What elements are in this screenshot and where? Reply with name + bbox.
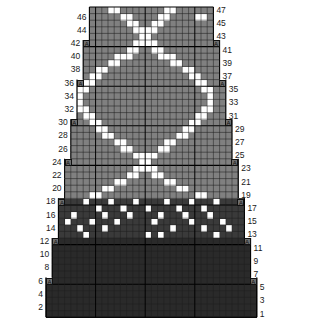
chart-cell-empty — [238, 205, 245, 212]
chart-cell-empty — [207, 20, 214, 27]
chart-cell-empty — [226, 132, 233, 139]
chart-cell-empty — [251, 284, 258, 291]
row-number-37: 37 — [223, 72, 232, 80]
row-number-20: 20 — [52, 184, 61, 192]
row-number-7: 7 — [254, 270, 259, 278]
row-number-23: 23 — [241, 164, 250, 172]
chart-cell-empty — [232, 165, 239, 172]
chart-cell-empty — [251, 304, 258, 311]
row-number-10: 10 — [40, 250, 49, 258]
row-number-34: 34 — [65, 92, 74, 100]
row-number-25: 25 — [235, 151, 244, 159]
chart-cell-empty — [244, 258, 251, 265]
chart-cell-empty — [220, 99, 227, 106]
chart-cell-empty — [238, 225, 245, 232]
row-number-42: 42 — [71, 39, 80, 47]
row-number-46: 46 — [77, 13, 86, 21]
row-number-45: 45 — [216, 19, 225, 27]
chart-cell-empty — [238, 212, 245, 219]
row-number-36: 36 — [65, 79, 74, 87]
chart-cell-empty — [244, 245, 251, 252]
repeat-marker-icon: A — [58, 199, 65, 206]
repeat-marker-icon: A — [225, 119, 232, 126]
row-number-40: 40 — [71, 52, 80, 60]
chart-cell-empty — [220, 106, 227, 113]
repeat-marker-icon: A — [219, 80, 226, 87]
chart-grid — [0, 0, 319, 336]
repeat-marker-icon: A — [71, 119, 78, 126]
row-number-11: 11 — [254, 244, 263, 252]
chart-cell-empty — [244, 264, 251, 271]
chart-cell-empty — [232, 185, 239, 192]
repeat-marker-icon: A — [213, 40, 220, 47]
row-number-33: 33 — [229, 98, 238, 106]
repeat-marker-icon: A — [77, 80, 84, 87]
row-number-13: 13 — [247, 230, 256, 238]
row-number-43: 43 — [216, 32, 225, 40]
chart-cell-empty — [207, 7, 214, 14]
chart-cell-empty — [238, 218, 245, 225]
row-number-5: 5 — [260, 283, 265, 291]
chart-cell-empty — [207, 27, 214, 34]
chart-cell-empty — [232, 179, 239, 186]
row-number-19: 19 — [241, 191, 250, 199]
repeat-marker-icon: A — [83, 40, 90, 47]
chart-cell-empty — [244, 251, 251, 258]
row-number-38: 38 — [71, 65, 80, 73]
row-number-9: 9 — [254, 257, 259, 265]
chart-cell-empty — [226, 146, 233, 153]
row-number-14: 14 — [46, 224, 55, 232]
chart-cell-empty — [220, 93, 227, 100]
row-number-4: 4 — [38, 290, 43, 298]
repeat-marker-icon: A — [46, 278, 53, 285]
chart-cell-empty — [251, 291, 258, 298]
row-number-44: 44 — [77, 26, 86, 34]
row-number-15: 15 — [247, 217, 256, 225]
chart-cell-empty — [213, 60, 220, 67]
chart-cell-empty — [251, 311, 258, 318]
row-number-26: 26 — [58, 145, 67, 153]
row-number-22: 22 — [52, 171, 61, 179]
row-number-16: 16 — [46, 211, 55, 219]
repeat-marker-icon: A — [244, 238, 251, 245]
row-number-29: 29 — [235, 125, 244, 133]
row-number-47: 47 — [216, 6, 225, 14]
chart-cell-empty — [213, 66, 220, 73]
repeat-marker-icon: A — [250, 278, 257, 285]
chart-cell-empty — [226, 139, 233, 146]
row-number-31: 31 — [229, 112, 238, 120]
knitting-chart: 4644424038363432302826242220181614121086… — [0, 0, 319, 336]
row-number-39: 39 — [223, 59, 232, 67]
row-number-27: 27 — [235, 138, 244, 146]
row-number-41: 41 — [223, 46, 232, 54]
row-number-2: 2 — [38, 303, 43, 311]
chart-cell-empty — [207, 14, 214, 21]
repeat-marker-icon: A — [231, 159, 238, 166]
repeat-marker-icon: A — [65, 159, 72, 166]
row-number-35: 35 — [229, 85, 238, 93]
repeat-marker-icon: A — [237, 199, 244, 206]
chart-cell-empty — [226, 126, 233, 133]
row-number-24: 24 — [52, 158, 61, 166]
row-number-8: 8 — [44, 263, 49, 271]
row-number-21: 21 — [241, 178, 250, 186]
chart-cell-empty — [213, 47, 220, 54]
chart-cell-empty — [251, 297, 258, 304]
row-number-32: 32 — [65, 105, 74, 113]
chart-cell-empty — [220, 86, 227, 93]
chart-cell-empty — [232, 172, 239, 179]
row-number-17: 17 — [247, 204, 256, 212]
row-number-18: 18 — [46, 197, 55, 205]
row-number-6: 6 — [38, 277, 43, 285]
row-number-30: 30 — [58, 118, 67, 126]
chart-cell-empty — [213, 53, 220, 60]
repeat-marker-icon: A — [52, 238, 59, 245]
row-number-1: 1 — [260, 310, 265, 318]
row-number-12: 12 — [40, 237, 49, 245]
row-number-28: 28 — [58, 131, 67, 139]
row-number-3: 3 — [260, 296, 265, 304]
